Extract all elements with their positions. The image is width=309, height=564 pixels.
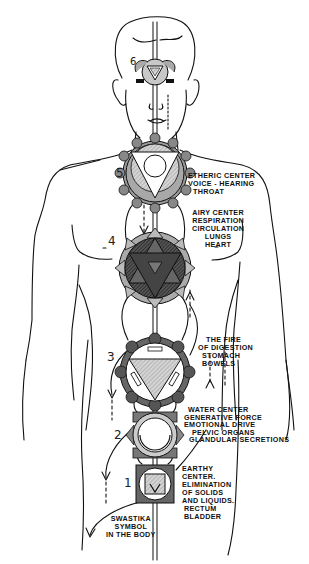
chakra-diagram: 6 5 4 3 2 1 ETHERIC CENTER VOICE - HEARI… [0,0,309,564]
center-4-number: 4 [108,234,116,248]
center-1-label: EARTHY CENTER. ELIMINATION OF SOLIDS AND… [182,465,234,521]
center-4-label: AIRY CENTER RESPIRATION CIRCULATION LUNG… [192,209,244,249]
center-5-symbol [115,133,195,213]
center-5-number: 5 [116,166,124,180]
center-3-symbol [115,333,195,411]
body-figure-drawing [0,0,309,564]
center-2-number: 2 [114,428,122,442]
center-1-symbol [136,465,174,503]
center-6-symbol [135,59,175,85]
center-1-number: 1 [124,476,132,490]
center-2-symbol [126,412,184,458]
center-3-number: 3 [107,350,115,364]
swastika-symbol-annotation: SWASTIKA SYMBOL IN THE BODY [106,515,156,539]
center-3-label: THE FIRE OF DIGESTION STOMACH BOWELS [198,336,253,368]
center-6-number: 6 [130,56,136,67]
center-4-symbol [115,228,195,308]
center-5-label: ETHERIC CENTER VOICE - HEARING THROAT [188,172,255,196]
center-2-label: WATER CENTER GENERATIVE FORCE EMOTIONAL … [184,406,289,444]
